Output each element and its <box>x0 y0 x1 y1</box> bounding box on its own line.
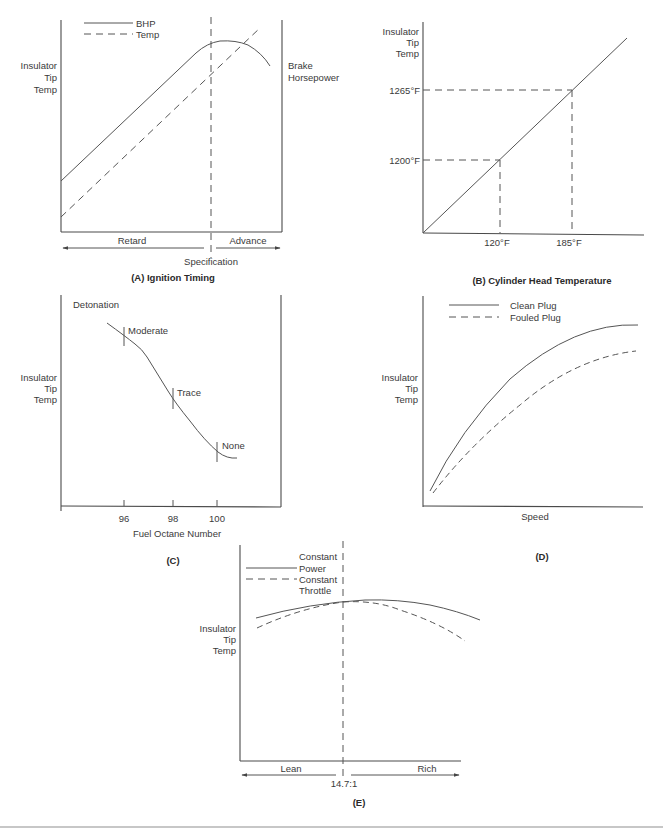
panel-c-caption: (C) <box>166 555 179 566</box>
panel-b-ylabel-line3: Temp <box>396 48 419 59</box>
xtick-96: 96 <box>119 513 130 524</box>
xtick-100: 100 <box>209 513 225 524</box>
panel-a-right-label-line1: Brake <box>288 60 313 71</box>
panel-a-right-label-line2: Horsepower <box>288 72 339 83</box>
panel-b-caption: (B) Cylinder Head Temperature <box>472 275 611 286</box>
panel-c-ylabel-line3: Temp <box>34 394 57 405</box>
panel-d-ylabel-line2: Tip <box>405 383 418 394</box>
ytick-1200: 1200°F <box>389 155 420 166</box>
panel-e-ylabel-line1: Insulator <box>200 623 236 634</box>
panel-a-ylabel-line3: Temp <box>34 84 57 95</box>
temp-curve <box>61 27 261 217</box>
legend-fouled-label: Fouled Plug <box>510 312 561 323</box>
legend-constant-power-label-line1: Constant <box>299 551 337 562</box>
panel-c-ylabel-line1: Insulator <box>21 372 57 383</box>
panel-c-ylabel-line2: Tip <box>44 383 57 394</box>
rich-label: Rich <box>417 763 436 774</box>
panel-c-octane: Detonation Moderate Trace None 96 98 100… <box>21 295 281 566</box>
panel-e-ylabel-line2: Tip <box>223 634 236 645</box>
panel-e-caption: (E) <box>353 797 366 808</box>
retard-label: Retard <box>118 235 147 246</box>
panel-a-ylabel-line2: Tip <box>44 72 57 83</box>
lean-label: Lean <box>280 763 301 774</box>
trace-label: Trace <box>177 387 201 398</box>
ytick-1265: 1265°F <box>389 85 420 96</box>
panel-e-air-fuel-ratio: Constant Power Constant Throttle Insulat… <box>200 541 480 808</box>
figure-canvas: BHP Temp Insulator Tip Temp Brake Horsep… <box>0 0 663 832</box>
panel-b-ylabel-line2: Tip <box>406 37 419 48</box>
legend-constant-power-label-line2: Power <box>299 563 326 574</box>
advance-label: Advance <box>230 235 267 246</box>
bhp-curve <box>61 41 270 181</box>
constant-throttle-curve <box>257 602 465 641</box>
stoich-ratio-label: 14.7:1 <box>331 778 357 789</box>
panel-a-caption: (A) Ignition Timing <box>131 272 215 283</box>
panel-a-ignition-timing: BHP Temp Insulator Tip Temp Brake Horsep… <box>21 17 340 283</box>
none-label: None <box>222 440 245 451</box>
legend-constant-throttle-label-line1: Constant <box>299 574 337 585</box>
legend-bhp-label: BHP <box>136 18 156 29</box>
panel-e-ylabel-line3: Temp <box>213 645 236 656</box>
panel-d-xlabel: Speed <box>521 511 548 522</box>
specification-label: Specification <box>184 256 238 267</box>
panel-a-ylabel-line1: Insulator <box>21 60 57 71</box>
panel-c-xlabel: Fuel Octane Number <box>133 528 221 539</box>
clean-plug-curve <box>430 325 638 491</box>
xtick-185: 185°F <box>556 237 582 248</box>
panel-d-caption: (D) <box>535 551 548 562</box>
panel-b-line <box>423 38 627 233</box>
detonation-curve <box>107 323 237 458</box>
panel-b-x-axis <box>423 233 644 235</box>
xtick-120: 120°F <box>484 237 510 248</box>
xtick-98: 98 <box>168 513 179 524</box>
legend-clean-label: Clean Plug <box>510 300 556 311</box>
panel-d-x-axis <box>423 506 643 507</box>
panel-d-speed: Clean Plug Fouled Plug Insulator Tip Tem… <box>382 296 643 562</box>
panel-d-ylabel-line1: Insulator <box>382 372 418 383</box>
panel-c-x-axis <box>61 506 281 507</box>
legend-constant-throttle-label-line2: Throttle <box>299 585 331 596</box>
fouled-plug-curve <box>433 351 636 493</box>
moderate-label: Moderate <box>128 325 168 336</box>
panel-d-ylabel-line3: Temp <box>395 394 418 405</box>
panel-b-cylinder-head-temperature: Insulator Tip Temp 1265°F 1200°F 120°F 1… <box>383 22 644 286</box>
detonation-label: Detonation <box>73 299 119 310</box>
panel-b-ylabel-line1: Insulator <box>383 26 419 37</box>
constant-power-curve <box>256 600 480 620</box>
legend-temp-label: Temp <box>136 29 159 40</box>
